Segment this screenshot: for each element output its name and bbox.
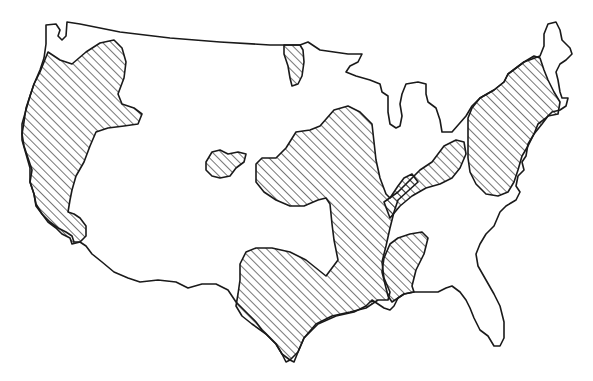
region-northern-plains	[284, 45, 304, 86]
region-ohio-valley	[384, 140, 466, 218]
region-central-plains	[236, 106, 418, 362]
region-northeast	[468, 56, 560, 196]
us-map	[0, 0, 593, 381]
region-colorado-spot	[206, 150, 246, 178]
